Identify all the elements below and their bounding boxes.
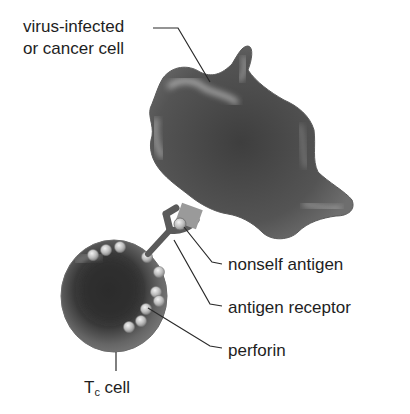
label-target-cell-line1: virus-infected xyxy=(23,17,124,37)
label-target-cell-line2: or cancer cell xyxy=(23,39,124,59)
immune-diagram xyxy=(0,0,410,414)
leader-nonself-antigen xyxy=(184,227,222,264)
tc-cell-main: T xyxy=(84,378,94,397)
label-tc-cell: Tc cell xyxy=(84,378,130,402)
label-nonself-antigen: nonself antigen xyxy=(228,255,343,275)
label-perforin: perforin xyxy=(228,341,286,361)
tc-cell-suffix: cell xyxy=(100,378,130,397)
label-antigen-receptor: antigen receptor xyxy=(228,298,351,318)
leader-antigen-receptor xyxy=(174,240,222,306)
